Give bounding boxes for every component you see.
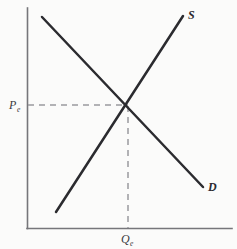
equilibrium-quantity-label-subscript: e xyxy=(130,239,134,248)
chart-canvas: S D P e Q e xyxy=(0,0,237,249)
supply-curve-label: S xyxy=(188,8,195,22)
equilibrium-price-label: P xyxy=(8,98,17,112)
supply-demand-figure: S D P e Q e xyxy=(0,0,237,249)
equilibrium-quantity-label: Q xyxy=(121,232,130,246)
equilibrium-price-label-subscript: e xyxy=(17,105,21,114)
supply-curve xyxy=(56,16,183,212)
demand-curve xyxy=(42,17,203,187)
demand-curve-label: D xyxy=(207,180,217,194)
